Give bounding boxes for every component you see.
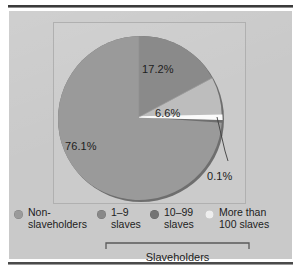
circle-swatch-icon [150,210,159,219]
legend-item-1-9-slaves[interactable]: 1–9 slaves [97,207,141,230]
pie-label-10-99-slaves: 6.6% [155,107,180,119]
legend: Non- slaveholders 1–9 slaves 10–99 slave… [9,207,292,241]
figure-container: 17.2% 6.6% 76.1% 0.1% Non- slaveholders … [0,0,299,278]
pie-label-1-9-slaves: 17.2% [142,63,174,75]
legend-item-label: More than 100 slaves [219,207,269,230]
pie-label-non-slaveholders: 76.1% [65,140,97,152]
legend-item-10-99-slaves[interactable]: 10–99 slaves [150,207,194,230]
circle-swatch-icon [205,210,214,219]
legend-item-label: 10–99 slaves [164,207,194,230]
legend-item-label: 1–9 slaves [111,207,141,230]
circle-swatch-icon [14,210,23,219]
bracket-svg [105,242,250,250]
pie-label-more-than-100-slaves: 0.1% [207,170,232,182]
pie-svg [9,11,292,207]
legend-item-more-than-100-slaves[interactable]: More than 100 slaves [205,207,269,230]
bottom-rule-shadow [8,264,293,265]
top-rule-shadow [8,7,293,8]
slaveholders-bracket [105,242,250,250]
legend-item-non-slaveholders[interactable]: Non- slaveholders [14,207,87,230]
circle-swatch-icon [97,210,106,219]
pie-slices [56,34,222,200]
chart-panel: 17.2% 6.6% 76.1% 0.1% Non- slaveholders … [9,11,292,259]
legend-item-label: Non- slaveholders [28,207,87,230]
